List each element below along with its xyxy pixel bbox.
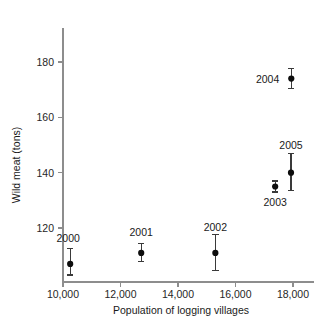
data-point-label: 2002: [204, 221, 228, 233]
x-tick-label: 14,000: [162, 288, 194, 300]
y-tick-label: 120: [36, 222, 54, 234]
scatter-plot-svg: 120140160180 10,00012,00014,00016,00018,…: [0, 0, 322, 326]
data-point-group: 2000: [57, 232, 81, 275]
x-tick-label: 10,000: [47, 288, 79, 300]
data-point-group: 2004: [256, 69, 295, 88]
data-point-marker: [67, 261, 73, 267]
data-point-group: 2002: [204, 221, 228, 271]
data-point-marker: [288, 76, 294, 82]
y-tick-label: 160: [36, 111, 54, 123]
data-point-label: 2000: [57, 232, 81, 244]
data-point-label: 2003: [263, 196, 287, 208]
x-tick-group: 10,00012,00014,00016,00018,000: [47, 282, 309, 300]
x-tick-label: 18,000: [277, 288, 309, 300]
data-points-layer: 200020012002200320042005: [57, 69, 303, 275]
data-point-label: 2005: [279, 139, 303, 151]
data-point-label: 2001: [130, 226, 154, 238]
data-point-marker: [212, 250, 218, 256]
data-point-group: 2001: [130, 226, 154, 261]
data-point-group: 2003: [263, 181, 287, 208]
data-point-marker: [288, 170, 294, 176]
y-tick-label: 180: [36, 56, 54, 68]
data-point-marker: [138, 250, 144, 256]
y-tick-label: 140: [36, 167, 54, 179]
chart-figure: 120140160180 10,00012,00014,00016,00018,…: [0, 0, 322, 326]
x-axis: 10,00012,00014,00016,00018,000: [47, 282, 314, 300]
x-tick-label: 16,000: [219, 288, 251, 300]
x-tick-label: 12,000: [104, 288, 136, 300]
data-point-label: 2004: [256, 73, 280, 85]
x-axis-title: Population of logging villages: [113, 304, 249, 316]
y-tick-group: 120140160180: [36, 56, 63, 234]
data-point-marker: [272, 183, 278, 189]
data-point-group: 2005: [279, 139, 303, 191]
y-axis-title: Wild meat (tons): [10, 127, 22, 203]
